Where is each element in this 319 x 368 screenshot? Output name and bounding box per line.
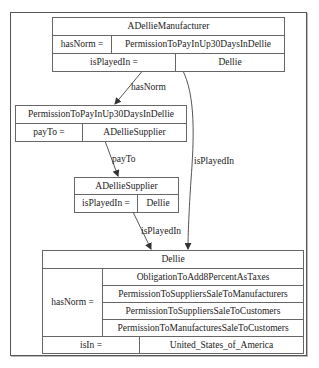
field-key: payTo = bbox=[16, 124, 83, 142]
edge-label-isplayedin-long: isPlayedIn bbox=[194, 156, 234, 166]
field-value: PermissionToSuppliersSaleToCustomers bbox=[103, 303, 304, 320]
node-title: ADellieManufacturer bbox=[53, 18, 285, 36]
node-dellie[interactable]: Dellie hasNorm = ObligationToAdd8Percent… bbox=[42, 250, 304, 354]
field-value: PermissionToManufacturesSaleToCustomers bbox=[103, 320, 304, 337]
node-title: Dellie bbox=[43, 251, 304, 269]
field-value: PermissionToPayInUp30DaysInDellie bbox=[112, 36, 285, 54]
field-key: hasNorm = bbox=[43, 269, 103, 337]
edge-label-hasnorm: hasNorm bbox=[131, 82, 166, 92]
field-value: ObligationToAdd8PercentAsTaxes bbox=[103, 269, 304, 286]
field-value: ADellieSupplier bbox=[83, 124, 187, 142]
field-value: Dellie bbox=[138, 195, 179, 213]
field-key: isPlayedIn = bbox=[75, 195, 138, 213]
node-adelliemanufacturer[interactable]: ADellieManufacturer hasNorm = Permission… bbox=[52, 17, 285, 72]
node-permissiontopayinup30daysindellie[interactable]: PermissionToPayInUp30DaysInDellie payTo … bbox=[15, 105, 187, 142]
field-key: hasNorm = bbox=[53, 36, 112, 54]
node-title: PermissionToPayInUp30DaysInDellie bbox=[16, 106, 187, 124]
node-title: ADellieSupplier bbox=[75, 178, 179, 195]
field-value: Dellie bbox=[176, 54, 285, 72]
edge-label-isplayedin-short: isPlayedIn bbox=[141, 226, 181, 236]
field-value: United_States_of_America bbox=[140, 337, 304, 354]
field-value: PermissionToSuppliersSaleToManufacturers bbox=[103, 286, 304, 303]
field-key: isPlayedIn = bbox=[53, 54, 176, 72]
field-key: isIn = bbox=[43, 337, 140, 354]
edge-label-payto: payTo bbox=[112, 154, 136, 164]
node-adelliesupplier[interactable]: ADellieSupplier isPlayedIn = Dellie bbox=[74, 177, 179, 213]
